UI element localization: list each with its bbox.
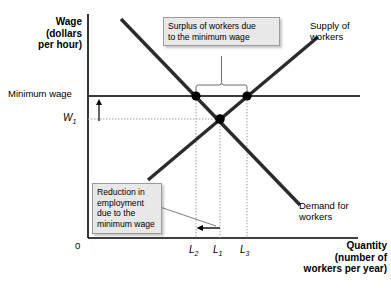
w1-label-sub: 1 <box>72 118 76 125</box>
surplus-callout-line1: Surplus of workers due <box>168 21 275 32</box>
l2-label-sub: 2 <box>195 250 199 257</box>
w1-label: W1 <box>63 112 76 126</box>
supply-curve-label: Supply of workers <box>310 20 388 43</box>
x-axis-title-line1: Quantity <box>263 240 387 252</box>
wage-increase-arrow <box>96 99 102 121</box>
point-l3-minwage <box>242 91 251 100</box>
demand-curve-label-line1: Demand for <box>299 200 377 211</box>
employment-reduction-arrow <box>197 225 221 231</box>
y-axis-title-line2: (dollars <box>8 28 82 40</box>
reduction-callout-line1: Reduction in <box>97 187 157 198</box>
demand-curve <box>121 19 300 205</box>
demand-curve-label: Demand for workers <box>299 200 377 223</box>
l1-label-sub: 1 <box>219 250 223 257</box>
supply-curve-label-line1: Supply of <box>310 20 388 31</box>
l2-label: L2 <box>189 244 198 258</box>
demand-curve-label-line2: workers <box>299 211 377 222</box>
l3-label: L3 <box>240 244 249 258</box>
reduction-callout-line4: minimum wage <box>97 219 157 230</box>
y-axis-title: Wage (dollars per hour) <box>8 16 82 51</box>
point-equilibrium <box>215 114 225 124</box>
supply-curve <box>148 37 318 180</box>
origin-label: 0 <box>75 241 80 252</box>
reduction-callout-line3: due to the <box>97 208 157 219</box>
x-axis-title-line2: (number of <box>263 252 387 264</box>
figure-canvas: Wage (dollars per hour) Quantity (number… <box>0 0 391 288</box>
reduction-callout[interactable]: Reduction in employment due to the minim… <box>92 183 162 234</box>
l3-label-sub: 3 <box>246 250 250 257</box>
x-axis-title-line3: workers per year) <box>263 263 387 275</box>
surplus-brace <box>196 83 247 93</box>
l1-label: L1 <box>213 244 222 258</box>
point-l2-minwage <box>191 91 200 100</box>
y-axis-title-line3: per hour) <box>8 39 82 51</box>
y-axis-title-line1: Wage <box>8 16 82 28</box>
reduction-callout-line2: employment <box>97 198 157 209</box>
surplus-callout[interactable]: Surplus of workers due to the minimum wa… <box>163 17 280 46</box>
x-axis-title: Quantity (number of workers per year) <box>263 240 387 275</box>
surplus-callout-line2: to the minimum wage <box>168 32 275 43</box>
minimum-wage-label: Minimum wage <box>8 89 72 100</box>
supply-curve-label-line2: workers <box>310 31 388 42</box>
reduction-leader-line <box>157 206 216 226</box>
